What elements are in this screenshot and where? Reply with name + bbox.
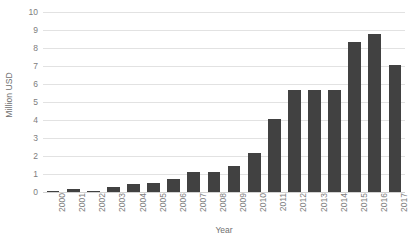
bar-chart: Million USD 012345678910 200020012002200… [0, 0, 410, 238]
y-tick-label: 7 [33, 61, 38, 71]
bar [228, 166, 241, 192]
x-tick-label: 2012 [298, 193, 308, 225]
x-axis-tick-labels: 2000200120022003200420052006200720082009… [43, 193, 405, 225]
bar [208, 172, 221, 192]
x-tick-label: 2009 [238, 193, 248, 225]
x-tick-label: 2005 [158, 193, 168, 225]
bar [67, 189, 80, 192]
bar [389, 65, 402, 192]
y-tick-label: 1 [33, 169, 38, 179]
y-tick-label: 6 [33, 79, 38, 89]
x-tick-label: 2001 [77, 193, 87, 225]
x-tick-label: 2014 [339, 193, 349, 225]
x-tick-label: 2016 [379, 193, 389, 225]
y-tick-label: 2 [33, 151, 38, 161]
y-tick-label: 8 [33, 43, 38, 53]
x-tick-label: 2004 [138, 193, 148, 225]
y-tick-label: 5 [33, 97, 38, 107]
x-tick-label: 2010 [258, 193, 268, 225]
bar [308, 90, 321, 192]
x-tick-label: 2013 [319, 193, 329, 225]
y-tick-label: 9 [33, 25, 38, 35]
plot-area [43, 12, 405, 192]
y-axis-tick-labels: 012345678910 [18, 12, 40, 192]
x-tick-label: 2007 [198, 193, 208, 225]
x-tick-label: 2017 [399, 193, 409, 225]
bar [147, 183, 160, 192]
y-tick-label: 10 [29, 7, 38, 17]
y-tick-label: 3 [33, 133, 38, 143]
x-tick-label: 2006 [178, 193, 188, 225]
bar [107, 187, 120, 192]
bar [328, 90, 341, 192]
x-tick-label: 2015 [359, 193, 369, 225]
bar [248, 153, 261, 192]
x-tick-label: 2008 [218, 193, 228, 225]
bar [127, 184, 140, 192]
bar [268, 119, 281, 192]
bar [87, 191, 100, 193]
bar [288, 90, 301, 192]
y-axis-title: Million USD [0, 0, 18, 190]
x-axis-title: Year [43, 225, 405, 235]
bar [167, 179, 180, 192]
bars-layer [43, 12, 405, 192]
x-tick-label: 2000 [57, 193, 67, 225]
bar [47, 191, 60, 193]
x-tick-label: 2003 [117, 193, 127, 225]
y-tick-label: 4 [33, 115, 38, 125]
x-tick-label: 2011 [278, 193, 288, 225]
x-tick-label: 2002 [97, 193, 107, 225]
bar [187, 172, 200, 192]
y-tick-label: 0 [33, 187, 38, 197]
bar [368, 34, 381, 192]
y-axis-title-text: Million USD [4, 72, 14, 118]
bar [348, 42, 361, 192]
